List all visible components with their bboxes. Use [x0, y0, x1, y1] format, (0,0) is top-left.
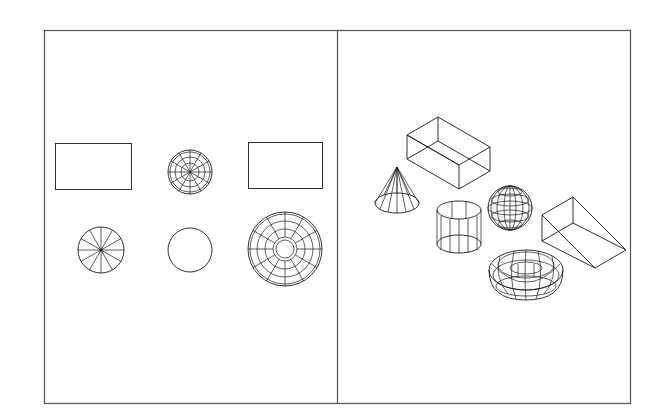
right-viewport	[375, 117, 626, 300]
sphere-plan	[168, 150, 212, 194]
wedge-plan-rectangle	[249, 143, 323, 189]
viewport-frame	[45, 31, 631, 404]
cylinder-3d	[437, 201, 481, 253]
cone-3d	[375, 167, 419, 213]
left-viewport	[56, 143, 323, 287]
torus-3d	[489, 250, 563, 300]
sphere-3d	[488, 186, 532, 230]
box-plan-rectangle	[56, 144, 132, 190]
box-3d	[407, 117, 490, 189]
torus-plan	[248, 212, 322, 286]
cone-plan	[78, 227, 124, 273]
wireframe-figure	[0, 0, 659, 419]
cylinder-plan-circle	[168, 228, 212, 272]
